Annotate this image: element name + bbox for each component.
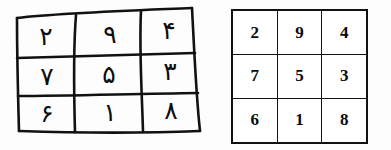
handdrawn-cell-r2c2: ۵ bbox=[102, 60, 115, 89]
printed-magic-square: 2 9 4 7 5 3 6 1 8 bbox=[231, 9, 368, 144]
table-row: 6 1 8 bbox=[233, 98, 366, 142]
printed-cell-r1c3: 4 bbox=[322, 11, 366, 55]
magic-square-figure: ۲ ۹ ۴ ۷ ۵ ۳ ۶ ۱ ۸ 2 9 4 7 5 3 bbox=[0, 0, 391, 150]
printed-cell-r3c3: 8 bbox=[322, 98, 366, 142]
printed-grid-table: 2 9 4 7 5 3 6 1 8 bbox=[233, 11, 366, 142]
printed-cell-r1c2: 9 bbox=[277, 11, 322, 55]
handdrawn-cell-r1c1: ۲ bbox=[39, 22, 52, 51]
table-row: 2 9 4 bbox=[233, 11, 366, 55]
printed-cell-r2c2: 5 bbox=[277, 55, 322, 99]
handdrawn-cell-r2c3: ۳ bbox=[163, 57, 176, 86]
handdrawn-cell-r1c3: ۴ bbox=[162, 16, 175, 45]
handdrawn-cell-r3c3: ۸ bbox=[164, 96, 177, 125]
printed-cell-r1c1: 2 bbox=[233, 11, 277, 55]
table-row: 7 5 3 bbox=[233, 55, 366, 99]
grid-line-v1 bbox=[74, 15, 76, 132]
handdrawn-cell-r3c2: ۱ bbox=[103, 98, 116, 127]
handdrawn-cell-r2c1: ۷ bbox=[40, 62, 53, 91]
grid-line-right bbox=[192, 8, 200, 131]
grid-line-v2 bbox=[140, 11, 143, 131]
printed-cell-r3c1: 6 bbox=[233, 98, 277, 142]
handdrawn-magic-square: ۲ ۹ ۴ ۷ ۵ ۳ ۶ ۱ ۸ bbox=[0, 0, 212, 150]
grid-line-left bbox=[17, 18, 19, 131]
handdrawn-cell-r1c2: ۹ bbox=[103, 20, 116, 49]
printed-cell-r2c3: 3 bbox=[322, 55, 366, 99]
printed-cell-r2c1: 7 bbox=[233, 55, 277, 99]
handdrawn-cell-r3c1: ۶ bbox=[40, 99, 53, 128]
grid-line-bottom bbox=[19, 131, 200, 133]
printed-cell-r3c2: 1 bbox=[277, 98, 322, 142]
handdrawn-square-svg: ۲ ۹ ۴ ۷ ۵ ۳ ۶ ۱ ۸ bbox=[0, 0, 212, 150]
